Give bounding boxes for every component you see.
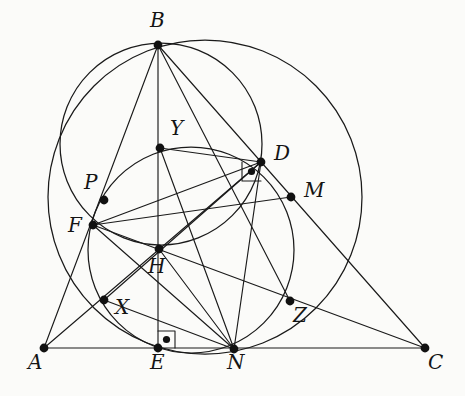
point-label-X: X xyxy=(115,297,129,317)
vertex-dot-B xyxy=(154,41,163,50)
segment-FC xyxy=(93,225,425,348)
segment-YD xyxy=(160,148,261,162)
geometry-canvas xyxy=(0,0,465,396)
point-label-A: A xyxy=(28,352,42,372)
vertex-dot-H xyxy=(155,245,164,254)
point-label-Y: Y xyxy=(170,118,183,138)
right-angle-at-D-dot xyxy=(248,168,255,175)
point-label-H: H xyxy=(148,256,165,276)
point-label-D: D xyxy=(274,143,290,163)
vertex-dots-layer xyxy=(40,41,430,354)
point-label-M: M xyxy=(304,180,324,200)
vertex-dot-F xyxy=(89,221,98,230)
segment-XD xyxy=(104,162,261,300)
vertex-dot-Y xyxy=(156,144,165,153)
point-label-Z: Z xyxy=(293,305,307,325)
point-label-E: E xyxy=(150,352,165,372)
point-label-N: N xyxy=(227,352,245,372)
right-angle-at-E-dot xyxy=(163,336,170,343)
vertex-dot-D xyxy=(257,158,266,167)
segment-FN xyxy=(93,225,234,349)
segment-YN xyxy=(160,148,234,349)
point-label-C: C xyxy=(428,352,443,372)
segment-HN xyxy=(159,249,234,349)
vertex-dot-M xyxy=(287,193,296,202)
geometry-figure: ABCDEFHMNPXYZ xyxy=(0,0,465,396)
vertex-dot-P xyxy=(100,196,109,205)
point-label-P: P xyxy=(84,172,97,192)
segment-DN xyxy=(234,162,261,349)
point-label-B: B xyxy=(150,10,165,30)
point-label-F: F xyxy=(68,215,82,235)
vertex-dot-X xyxy=(100,296,109,305)
